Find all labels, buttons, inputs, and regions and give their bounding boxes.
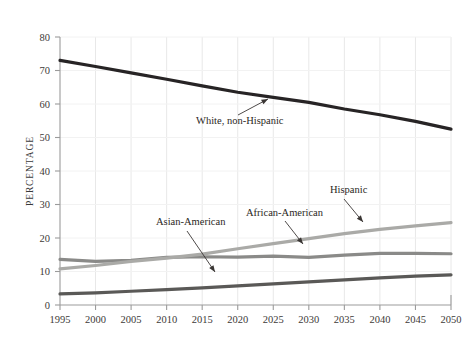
y-axis-title: PERCENTAGE (25, 136, 35, 206)
x-tick-label: 2025 (263, 314, 284, 325)
x-tick-label: 2045 (405, 314, 426, 325)
x-tick-label: 2010 (156, 314, 177, 325)
x-tick-label: 2050 (441, 314, 462, 325)
x-tick-label: 2035 (334, 314, 355, 325)
series-label-african-american: African-American (246, 207, 324, 218)
y-tick-label: 10 (40, 266, 51, 277)
y-axis-title-text: PERCENTAGE (25, 136, 35, 206)
x-tick-label: 2005 (121, 314, 142, 325)
y-tick-label: 70 (40, 65, 51, 76)
x-tick-label: 2015 (192, 314, 213, 325)
x-tick-label: 2040 (369, 314, 390, 325)
series-label-hispanic: Hispanic (330, 184, 368, 195)
y-tick-label: 60 (40, 99, 51, 110)
x-tick-label: 2000 (85, 314, 106, 325)
y-tick-label: 40 (40, 166, 51, 177)
series-label-white-non-hispanic: White, non-Hispanic (196, 115, 284, 126)
population-projection-line-chart: 01020304050607080 1995200020052010201520… (0, 0, 475, 342)
y-tick-label: 30 (40, 199, 51, 210)
x-tick-label: 2030 (298, 314, 319, 325)
x-tick-label: 1995 (50, 314, 71, 325)
x-tick-label: 2020 (227, 314, 248, 325)
chart-container: 01020304050607080 1995200020052010201520… (0, 0, 475, 342)
series-label-asian-american: Asian-American (156, 216, 226, 227)
y-tick-label: 20 (40, 233, 51, 244)
y-tick-label: 0 (45, 300, 50, 311)
y-tick-label: 50 (40, 132, 51, 143)
y-tick-label: 80 (40, 32, 51, 43)
